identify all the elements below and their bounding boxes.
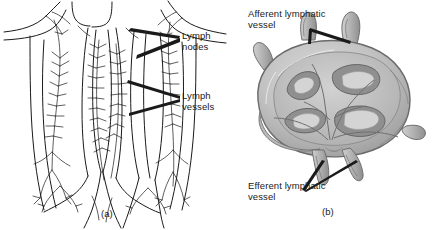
label-afferent-line1: Afferent lymphatic [248,8,326,19]
label-lymph-nodes: Lymphnodes [182,30,211,52]
leader-lymph-vessels-lower [129,99,180,116]
caption-panel-b: (b) [322,206,334,217]
label-efferent-line1: Efferent lymphatic [248,180,326,191]
label-lymph-nodes-line1: Lymph [182,30,211,41]
leader-afferent-right [309,28,351,44]
caption-panel-a: (a) [101,208,113,219]
label-afferent-lymphatic-vessel: Afferent lymphaticvessel [248,8,326,30]
leader-lymph-nodes-lower [136,38,180,59]
label-lymph-vessels: Lymphvessels [182,90,214,112]
leader-lymph-nodes-upper [128,28,180,39]
label-efferent-lymphatic-vessel: Efferent lymphaticvessel [248,180,326,202]
panel-b-lymph-node: Afferent lymphaticvessel Efferent lympha… [230,0,439,230]
label-lymph-nodes-line2: nodes [182,41,208,52]
figure-lymphatic-system: Lymphnodes Lymphvessels (a) [0,0,439,230]
label-efferent-line2: vessel [248,191,276,202]
label-afferent-line2: vessel [248,19,276,30]
label-lymph-vessels-line1: Lymph [182,90,211,101]
label-lymph-vessels-line2: vessels [182,101,214,112]
panel-a-trunk-lymphatics: Lymphnodes Lymphvessels (a) [0,0,230,230]
leader-lymph-vessels-upper [127,80,180,99]
